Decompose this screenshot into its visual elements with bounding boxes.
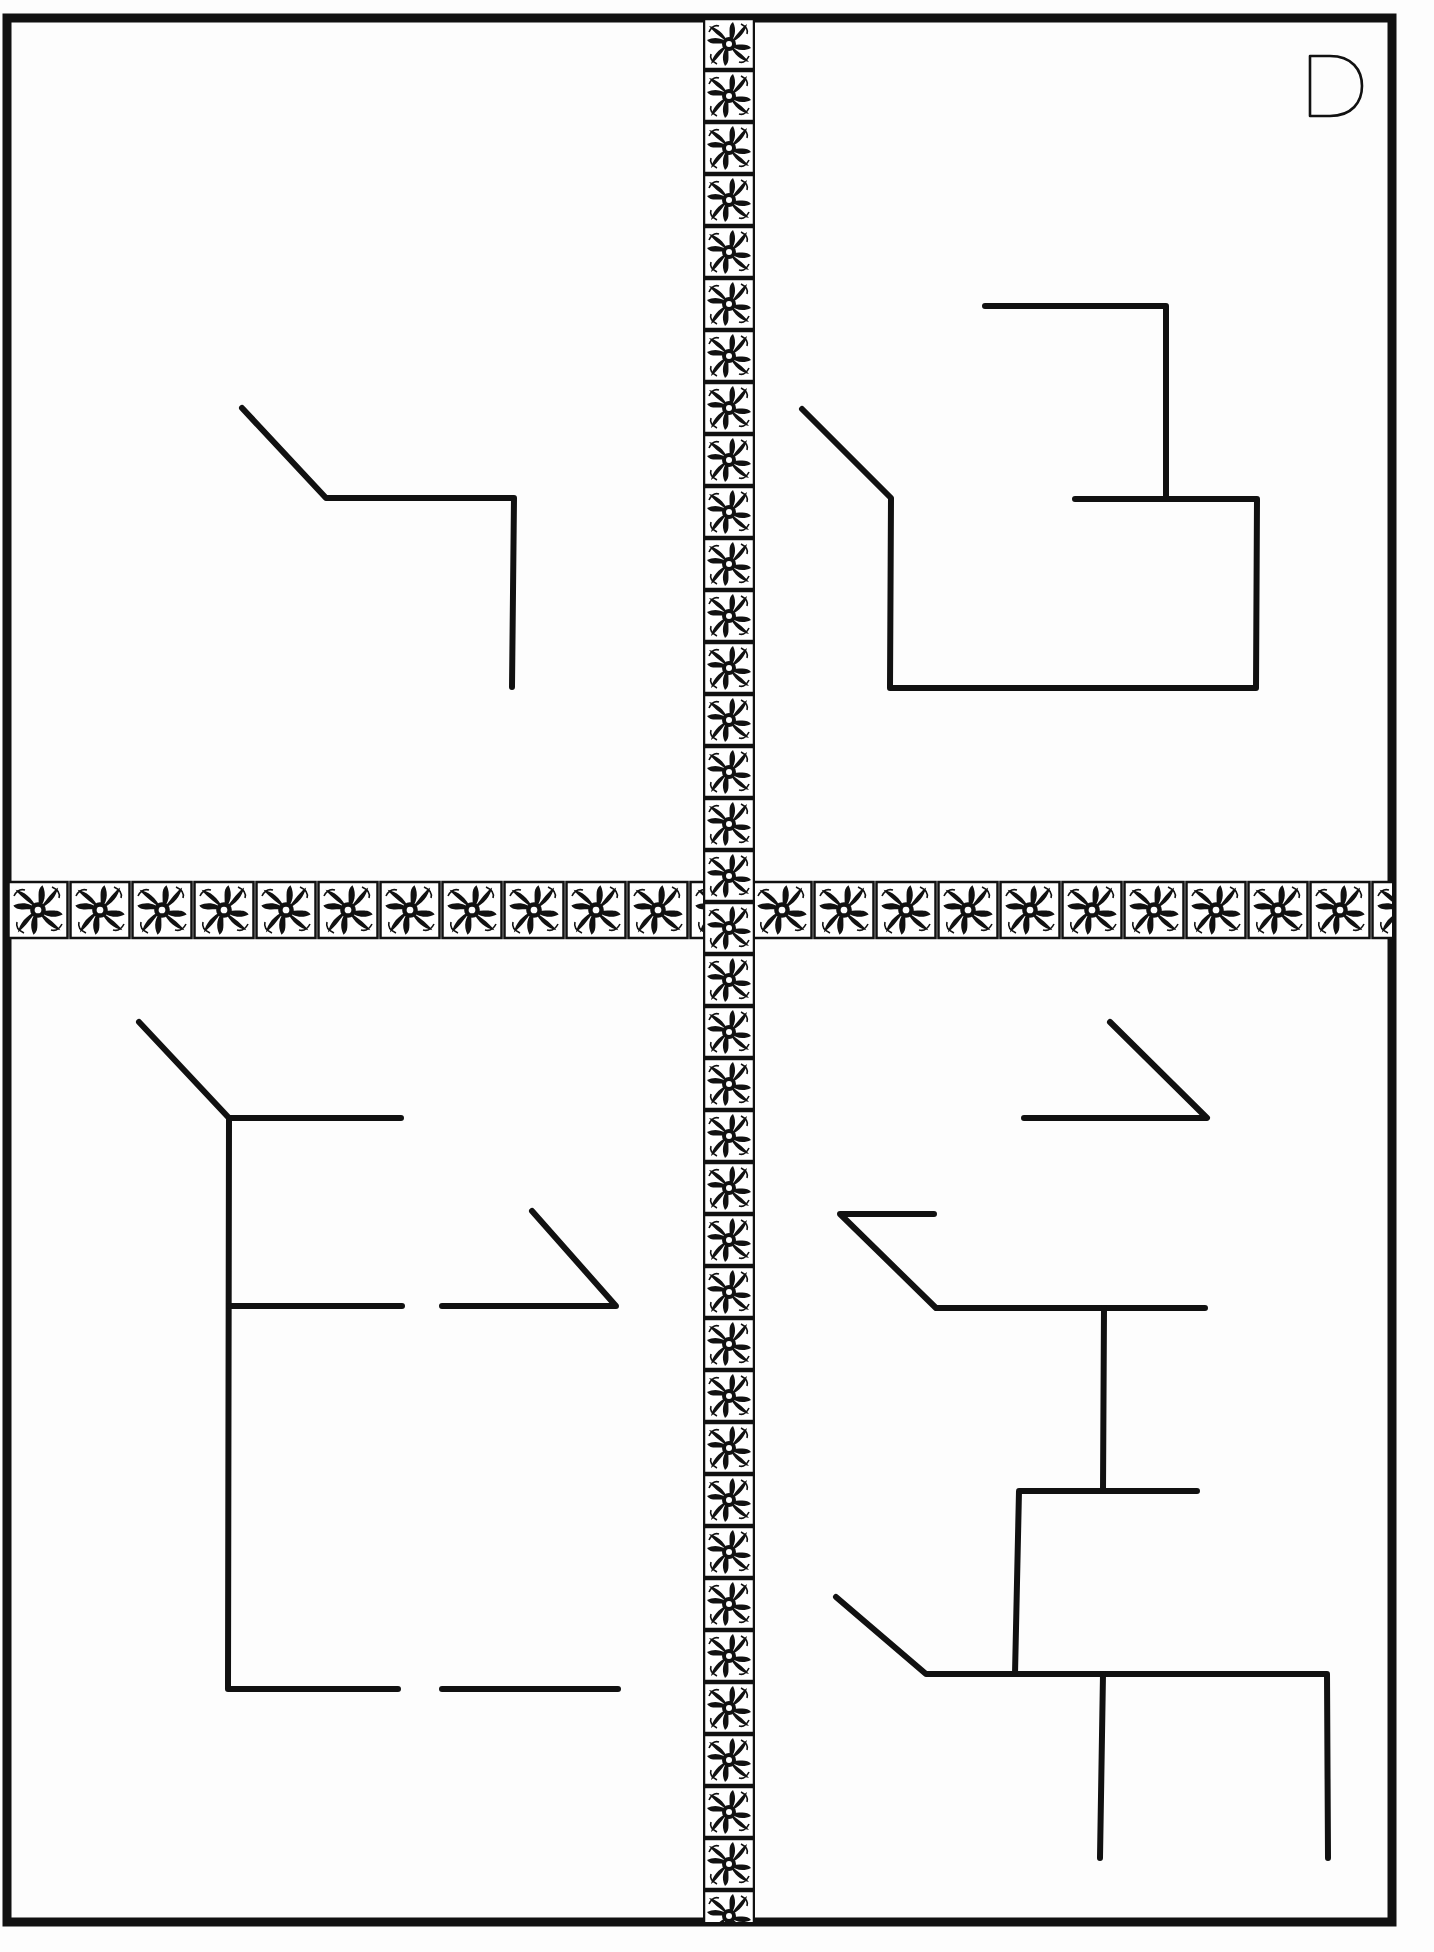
page-label-d-glyph: [1300, 48, 1380, 128]
figure-stroke: [242, 408, 514, 687]
figure-stroke: [1100, 1674, 1103, 1858]
figure-stroke: [228, 1118, 398, 1689]
figure-stroke: [836, 1597, 1328, 1858]
figure-stroke: [985, 306, 1166, 499]
page-frame: [7, 18, 1392, 1922]
puzzle-page: D: [0, 0, 1434, 1952]
figure-stroke: [1015, 1491, 1197, 1674]
ornament-band-vertical: [703, 18, 755, 1922]
figure-stroke: [1103, 1308, 1104, 1490]
figure-top-left: [242, 408, 514, 687]
figure-bottom-left: [139, 1022, 618, 1689]
ornament-band-horizontal: [7, 880, 1392, 940]
figure-stroke: [840, 1214, 1205, 1308]
figure-bottom-right: [836, 1022, 1328, 1858]
figure-stroke: [802, 409, 1257, 688]
figure-stroke: [139, 1022, 401, 1118]
diagram-canvas: [0, 0, 1434, 1952]
figure-stroke: [1024, 1022, 1207, 1118]
figure-stroke: [442, 1211, 616, 1306]
figure-top-right: [802, 306, 1257, 688]
